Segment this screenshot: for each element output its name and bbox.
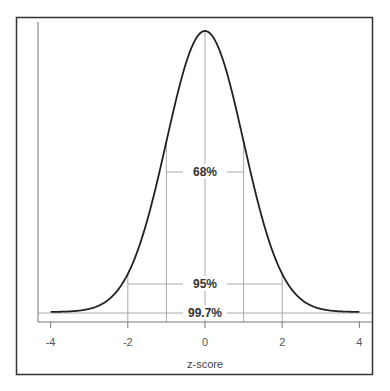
svg-text:99.7%: 99.7% xyxy=(188,306,222,320)
svg-text:-4: -4 xyxy=(46,336,56,348)
svg-text:2: 2 xyxy=(279,336,285,348)
svg-text:95%: 95% xyxy=(193,277,217,291)
svg-text:0: 0 xyxy=(202,336,208,348)
normal-distribution-chart: -4-2024 68%95%99.7% z-score xyxy=(0,0,390,391)
svg-text:4: 4 xyxy=(356,336,362,348)
x-axis-label: z-score xyxy=(187,358,223,370)
svg-text:-2: -2 xyxy=(123,336,133,348)
outer-frame xyxy=(17,18,373,375)
svg-text:68%: 68% xyxy=(193,165,217,179)
